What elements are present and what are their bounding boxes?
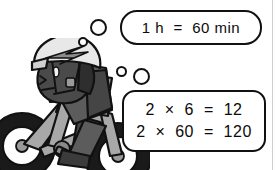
thought-dot-small-2 <box>116 66 127 77</box>
strap-buckle <box>66 78 75 87</box>
equation-line: 2 × 6 = 12 <box>146 99 243 121</box>
page-edge-line <box>272 0 273 170</box>
thought-dot-medium-2 <box>133 68 150 85</box>
thought-bubble-time-conversion: 1 h = 60 min <box>120 10 262 45</box>
illustration-scene: 1 h = 60 min 2 × 6 = 12 2 × 60 = 120 <box>0 0 280 170</box>
thought-bubble-multiplication: 2 × 6 = 12 2 × 60 = 120 <box>122 90 266 152</box>
thought-dot-medium-1 <box>90 19 107 36</box>
thought-dot-small-1 <box>78 37 88 47</box>
equation-line: 1 h = 60 min <box>142 19 240 36</box>
equation-line: 2 × 60 = 120 <box>136 121 252 143</box>
